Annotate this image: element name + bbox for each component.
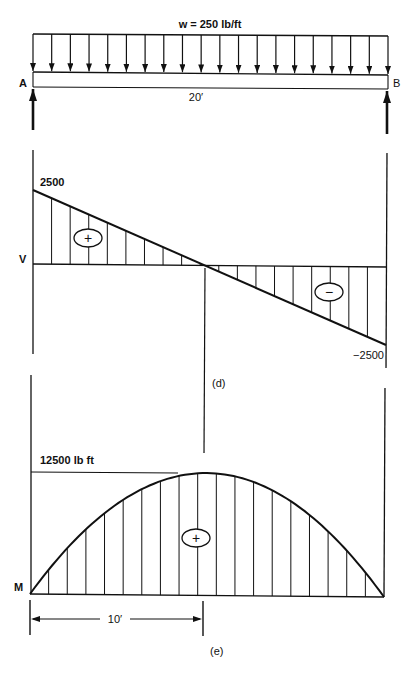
positive-sign-icon: +: [74, 229, 102, 247]
moment-positive-sign-icon: +: [182, 529, 210, 547]
shear-zero-axis: [33, 264, 387, 267]
beam: [33, 72, 388, 89]
shear-line: [33, 190, 386, 345]
svg-text:+: +: [192, 530, 200, 546]
dimension-10ft: 10′: [30, 600, 203, 636]
distributed-load-arrows: [33, 34, 388, 74]
shear-diagram: 2500 V −2500 + − (d): [19, 150, 387, 453]
load-diagram: w = 250 lb/ft A B 20′: [19, 18, 400, 134]
load-top-line: [33, 34, 388, 36]
negative-sign-icon: −: [315, 283, 343, 301]
moment-baseline: [30, 594, 384, 597]
shear-min-label: −2500: [353, 349, 384, 361]
support-label-a: A: [19, 77, 27, 89]
moment-max-label: 12500 lb ft: [40, 454, 94, 466]
support-label-b: B: [393, 77, 400, 89]
right-guide-line: [386, 153, 387, 368]
svg-text:−: −: [325, 284, 333, 300]
span-label: 20′: [189, 91, 203, 103]
moment-max-line: [31, 472, 178, 473]
shear-axis-label: V: [19, 253, 27, 265]
shear-max-label: 2500: [40, 176, 64, 188]
caption-d: (d): [212, 377, 225, 389]
moment-axis-label: M: [14, 581, 23, 593]
svg-text:+: +: [84, 230, 92, 246]
center-line: [204, 268, 205, 453]
dimension-label: 10′: [108, 613, 122, 625]
moment-diagram: 12500 lb ft + M 10′ (e): [14, 375, 385, 657]
load-label: w = 250 lb/ft: [178, 18, 242, 30]
caption-e: (e): [210, 645, 223, 657]
right-guide-line-lower: [384, 388, 385, 597]
beam-diagram: w = 250 lb/ft A B 20′ 2500 V: [0, 0, 414, 676]
